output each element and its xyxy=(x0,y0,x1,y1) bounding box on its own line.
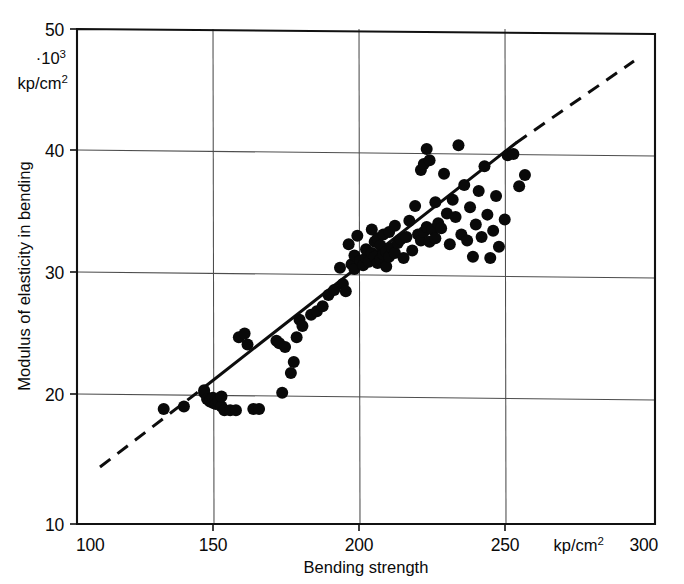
data-point xyxy=(291,331,303,343)
data-point xyxy=(340,285,352,297)
data-point xyxy=(351,230,363,242)
ytick-label-50: 50 xyxy=(45,20,65,40)
ytick-label-10: 10 xyxy=(45,515,65,535)
chart-container: 50 40 30 20 10 100 150 200 250 300 ·103 … xyxy=(0,0,684,584)
data-point xyxy=(288,356,300,368)
data-point xyxy=(242,339,254,351)
data-point xyxy=(473,185,485,197)
y-unit-prefix: ·10 xyxy=(36,49,60,67)
gridline-y-40 xyxy=(77,150,655,156)
data-point xyxy=(296,320,308,332)
data-point xyxy=(285,367,297,379)
data-point xyxy=(478,160,490,172)
data-point xyxy=(406,245,418,257)
xtick-label-150: 150 xyxy=(199,535,228,555)
data-point xyxy=(490,190,502,202)
data-point xyxy=(343,238,355,250)
gridline-y-30 xyxy=(77,272,655,278)
data-point xyxy=(470,219,482,231)
data-point xyxy=(429,196,441,208)
data-point xyxy=(400,231,412,243)
data-point xyxy=(450,211,462,223)
data-point xyxy=(461,235,473,247)
data-point xyxy=(403,215,415,227)
data-point xyxy=(409,200,421,212)
trendline-dashed-lower xyxy=(100,389,202,467)
y-axis-title: Modulus of elasticity in bending xyxy=(15,161,33,390)
gridline-x-150 xyxy=(213,29,214,524)
xtick-label-100: 100 xyxy=(76,535,105,555)
data-point xyxy=(435,222,447,234)
data-point xyxy=(334,262,346,274)
y-unit-prefix-exponent: 3 xyxy=(60,48,66,60)
data-point xyxy=(438,168,450,180)
data-point xyxy=(467,251,479,263)
data-point xyxy=(444,238,456,250)
data-point xyxy=(389,220,401,232)
frame-path xyxy=(77,29,655,524)
x-axis-unit: kp/cm2 xyxy=(554,535,604,554)
plot-frame xyxy=(77,29,655,524)
trendline-dashed-upper xyxy=(516,61,634,143)
data-point xyxy=(484,252,496,264)
data-point xyxy=(464,201,476,213)
x-unit-base: kp/cm xyxy=(554,536,598,554)
ytick-label-20: 20 xyxy=(45,385,65,405)
data-point xyxy=(279,341,291,353)
x-axis-title: Bending strength xyxy=(304,558,429,576)
y-unit-exponent: 2 xyxy=(62,73,68,85)
data-point xyxy=(424,154,436,166)
ytick-label-40: 40 xyxy=(45,141,65,161)
ytick-label-30: 30 xyxy=(45,263,65,283)
data-point xyxy=(178,400,190,412)
data-point xyxy=(513,180,525,192)
y-unit-base: kp/cm xyxy=(18,74,62,92)
data-point xyxy=(519,169,531,181)
y-tick-labels: 50 40 30 20 10 xyxy=(45,20,65,535)
data-point xyxy=(239,327,251,339)
data-point xyxy=(276,387,288,399)
data-point xyxy=(317,300,329,312)
y-unit-power: ·103 xyxy=(36,48,66,67)
tick-marks xyxy=(70,29,505,531)
gridline-x-250 xyxy=(505,29,506,524)
gridline-y-20 xyxy=(77,394,655,400)
data-point xyxy=(499,214,511,226)
x-unit-exponent: 2 xyxy=(598,535,604,547)
data-point xyxy=(481,209,493,221)
data-point xyxy=(487,225,499,237)
y-unit-text: kp/cm2 xyxy=(18,73,68,92)
xtick-label-200: 200 xyxy=(345,535,374,555)
data-point xyxy=(507,148,519,160)
xtick-label-250: 250 xyxy=(491,535,520,555)
data-point xyxy=(216,391,228,403)
data-point xyxy=(253,403,265,415)
data-point xyxy=(458,179,470,191)
xtick-label-300: 300 xyxy=(629,535,658,555)
x-unit-text: kp/cm2 xyxy=(554,535,604,554)
data-point xyxy=(447,194,459,206)
data-point xyxy=(421,143,433,155)
scatter-plot-svg: 50 40 30 20 10 100 150 200 250 300 ·103 … xyxy=(0,0,684,584)
y-axis-unit: ·103 kp/cm2 xyxy=(18,48,68,92)
data-point xyxy=(158,403,170,415)
gridlines xyxy=(77,29,655,524)
gridline-x-200 xyxy=(359,29,360,524)
data-point xyxy=(230,404,242,416)
data-point xyxy=(452,139,464,151)
data-point xyxy=(493,241,505,253)
data-point xyxy=(476,231,488,243)
